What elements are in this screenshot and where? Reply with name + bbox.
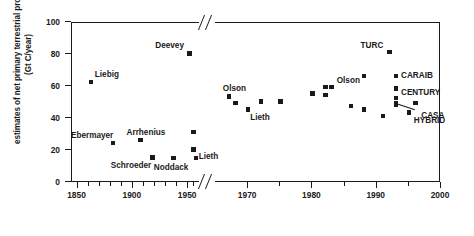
data-point bbox=[89, 80, 94, 85]
x-axis-minor-tick bbox=[279, 182, 280, 186]
data-point-label: Schroeder bbox=[111, 161, 152, 170]
x-axis-minor-tick bbox=[88, 182, 89, 186]
data-point-label: HYBRID bbox=[414, 116, 445, 125]
x-axis-minor-tick bbox=[154, 182, 155, 186]
data-point bbox=[246, 107, 251, 112]
data-point bbox=[329, 85, 334, 90]
y-axis-tick-label: 80 bbox=[20, 50, 60, 58]
x-axis-tick-label: 1990 bbox=[356, 190, 396, 200]
y-axis-tick-label: 40 bbox=[20, 114, 60, 122]
data-point bbox=[227, 94, 232, 99]
data-point bbox=[381, 114, 386, 119]
x-axis-tick-label: 1980 bbox=[291, 190, 331, 200]
data-point bbox=[310, 91, 315, 96]
data-point bbox=[233, 101, 238, 106]
x-axis-tick bbox=[440, 182, 441, 188]
data-point bbox=[194, 156, 199, 161]
x-axis-tick bbox=[187, 182, 188, 188]
data-point bbox=[362, 107, 367, 112]
data-point bbox=[259, 99, 264, 104]
data-point bbox=[323, 93, 328, 98]
x-axis-tick bbox=[77, 182, 78, 188]
data-point bbox=[407, 110, 412, 115]
data-point bbox=[413, 101, 418, 106]
data-point-label: CARAIB bbox=[401, 71, 433, 80]
x-axis-minor-tick bbox=[143, 182, 144, 186]
x-axis-tick bbox=[376, 182, 377, 188]
x-axis-tick-label: 2000 bbox=[420, 190, 460, 200]
data-point-label: Lieth bbox=[199, 152, 219, 161]
data-point bbox=[171, 156, 176, 161]
plot-area: LiebigEbermayerArrheniusSchroederNoddack… bbox=[71, 22, 440, 182]
data-point-label: Liebig bbox=[95, 70, 119, 79]
data-point bbox=[394, 86, 399, 91]
y-axis-tick-label: 20 bbox=[20, 146, 60, 154]
data-point bbox=[138, 138, 143, 143]
x-axis-minor-tick bbox=[121, 182, 122, 186]
data-point-label: TURC bbox=[361, 41, 384, 50]
data-point bbox=[323, 85, 328, 90]
x-axis-tick-label: 1850 bbox=[57, 190, 97, 200]
y-axis-tick-label: 60 bbox=[20, 82, 60, 90]
x-axis-minor-tick bbox=[110, 182, 111, 186]
data-point bbox=[111, 141, 116, 146]
data-point-label: Arrhenius bbox=[127, 128, 166, 137]
data-point-label: Noddack bbox=[154, 163, 189, 172]
x-axis-minor-tick bbox=[193, 182, 194, 186]
x-axis-tick bbox=[132, 182, 133, 188]
data-point-label: Ebermayer bbox=[71, 131, 113, 140]
data-point-label: Deevey bbox=[155, 41, 184, 50]
x-axis-minor-tick bbox=[408, 182, 409, 186]
data-point-label: Olson bbox=[223, 84, 246, 93]
data-point bbox=[191, 147, 196, 152]
x-axis-tick bbox=[247, 182, 248, 188]
data-point-label: Lieth bbox=[250, 113, 270, 122]
data-point bbox=[349, 104, 354, 109]
x-axis-minor-tick bbox=[99, 182, 100, 186]
x-axis-tick-label: 1950 bbox=[167, 190, 207, 200]
x-axis-minor-tick bbox=[344, 182, 345, 186]
data-point bbox=[150, 155, 155, 160]
data-point bbox=[362, 74, 367, 79]
y-axis-tick-label: 0 bbox=[20, 178, 60, 186]
x-axis-minor-tick bbox=[165, 182, 166, 186]
x-axis-tick-label: 1970 bbox=[227, 190, 267, 200]
x-axis-minor-tick bbox=[176, 182, 177, 186]
data-point-label: CENTURY bbox=[401, 88, 440, 97]
y-axis-tick-label: 100 bbox=[20, 18, 60, 26]
data-point bbox=[191, 130, 196, 135]
data-point-label: Olson bbox=[337, 76, 360, 85]
data-point bbox=[187, 51, 192, 56]
x-axis-tick-label: 1900 bbox=[112, 190, 152, 200]
data-point bbox=[394, 74, 399, 79]
x-axis-tick bbox=[311, 182, 312, 188]
data-point bbox=[278, 99, 283, 104]
chart-figure: estimates of net primary terrestrial pro… bbox=[0, 0, 474, 236]
data-point bbox=[387, 50, 392, 55]
